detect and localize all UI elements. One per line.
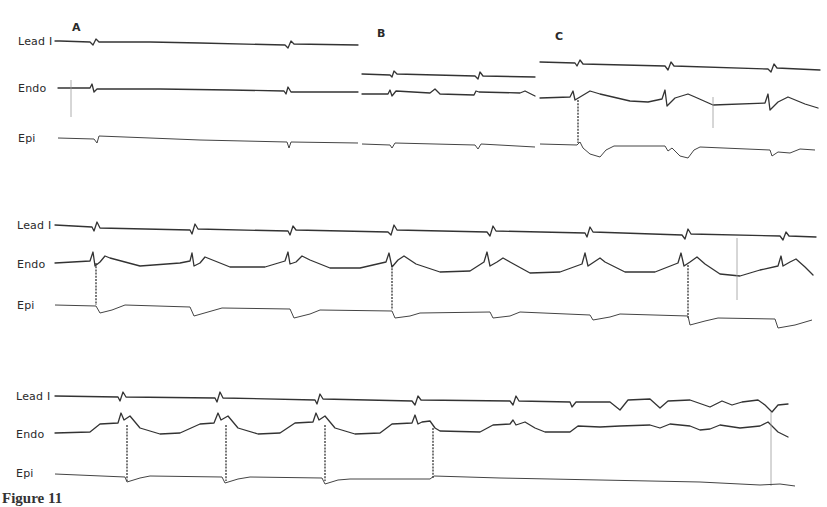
row1-panel-c-traces	[540, 60, 820, 158]
figure-caption: Figure 11	[2, 490, 62, 507]
row3-traces	[55, 392, 795, 486]
row2-traces	[55, 222, 816, 328]
row1-panel-b-traces	[362, 71, 535, 149]
row1-panel-a-traces	[55, 39, 358, 148]
